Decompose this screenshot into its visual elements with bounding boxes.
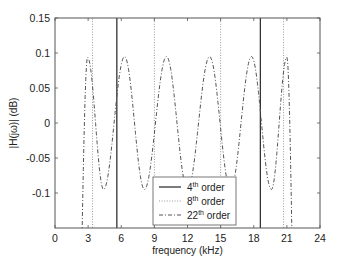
x-tick-label: 21 (281, 232, 293, 244)
legend: 4th order8th order22th order (153, 177, 236, 225)
y-tick-label: -0.1 (32, 187, 50, 199)
series-group (82, 16, 293, 263)
y-axis-label: |H(jω)| (dB) (8, 98, 19, 149)
y-tick-label: -0.05 (26, 152, 50, 164)
x-tick-label: 0 (52, 232, 58, 244)
x-tick-label: 18 (248, 232, 260, 244)
x-tick-label: 15 (215, 232, 227, 244)
y-tick-label: 0.05 (30, 82, 51, 94)
x-tick-label: 3 (85, 232, 91, 244)
x-tick-label: 24 (314, 232, 326, 244)
x-tick-label: 6 (118, 232, 124, 244)
y-tick-label: 0.1 (35, 47, 50, 59)
y-tick-label: 0 (44, 117, 50, 129)
plot-area (82, 16, 293, 263)
chart: 03691215182124-0.1-0.0500.050.10.15frequ… (0, 0, 340, 263)
x-tick-label: 12 (182, 232, 194, 244)
x-axis-label: frequency (kHz) (152, 245, 223, 256)
y-tick-label: 0.15 (30, 12, 51, 24)
legend-label: 22th order (187, 209, 231, 221)
x-tick-label: 9 (151, 232, 157, 244)
